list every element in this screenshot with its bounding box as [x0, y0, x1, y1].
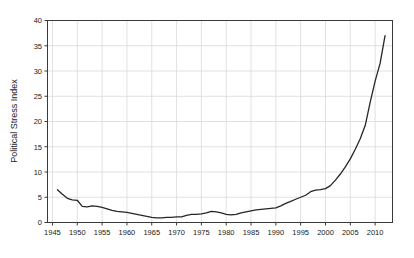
svg-text:1950: 1950: [69, 228, 86, 237]
svg-text:30: 30: [34, 67, 42, 76]
svg-text:2000: 2000: [317, 228, 334, 237]
svg-text:2005: 2005: [342, 228, 359, 237]
svg-text:15: 15: [34, 143, 42, 152]
chart-figure: 0510152025303540 19451950195519601965197…: [0, 0, 414, 258]
svg-text:1990: 1990: [268, 228, 285, 237]
svg-text:1970: 1970: [168, 228, 185, 237]
svg-text:1975: 1975: [193, 228, 210, 237]
svg-text:1945: 1945: [44, 228, 61, 237]
svg-text:1985: 1985: [243, 228, 260, 237]
svg-text:1955: 1955: [94, 228, 111, 237]
svg-text:20: 20: [34, 117, 42, 126]
svg-text:25: 25: [34, 92, 42, 101]
svg-text:1995: 1995: [292, 228, 309, 237]
svg-text:0: 0: [38, 218, 42, 227]
chart-background: [0, 0, 414, 258]
svg-text:1960: 1960: [119, 228, 136, 237]
y-axis-title: Political Stress Index: [9, 79, 19, 163]
svg-text:10: 10: [34, 168, 42, 177]
political-stress-index-line-chart: 0510152025303540 19451950195519601965197…: [0, 0, 414, 258]
svg-text:5: 5: [38, 193, 42, 202]
svg-text:1965: 1965: [143, 228, 160, 237]
svg-text:35: 35: [34, 42, 42, 51]
svg-text:40: 40: [34, 16, 42, 25]
svg-text:1980: 1980: [218, 228, 235, 237]
svg-text:2010: 2010: [367, 228, 384, 237]
